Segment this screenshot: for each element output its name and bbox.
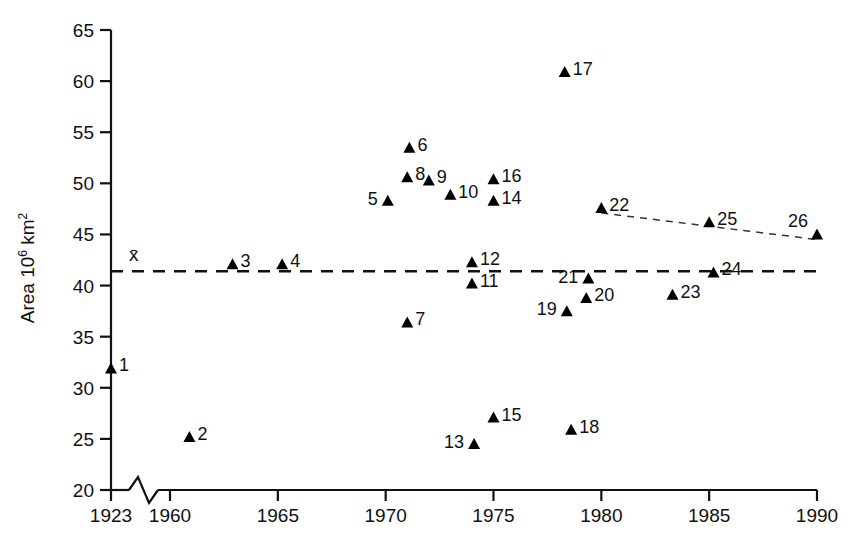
y-axis-title: Area 106 km2 [16,212,38,323]
chart-canvas: 65605550454035302520 1923196019651970197… [0,0,854,549]
y-tick-label: 35 [73,327,94,348]
y-tick-label: 30 [73,378,94,399]
data-point-label: 22 [609,195,629,215]
x-tick-label: 1975 [472,505,514,526]
data-point-label: 11 [480,271,499,291]
data-point-label: 12 [480,249,500,269]
scatter-chart: 65605550454035302520 1923196019651970197… [0,0,854,549]
y-tick-label: 25 [73,429,94,450]
data-point-label: 21 [558,267,578,287]
data-point-label: 19 [537,299,557,319]
y-tick-label: 55 [73,122,94,143]
data-point-label: 7 [415,309,425,329]
y-axis-title-text: Area 106 km2 [16,212,38,323]
x-tick-label: 1970 [365,505,407,526]
data-point-label: 9 [437,167,447,187]
data-point-label: 26 [788,211,808,231]
data-point-label: 14 [502,188,522,208]
y-tick-label: 60 [73,71,94,92]
data-point-label: 17 [573,59,593,79]
data-point-label: 24 [721,259,741,279]
data-point-label: 3 [241,251,251,271]
data-point-label: 25 [717,209,737,229]
data-point-label: 18 [579,417,599,437]
data-point-label: 8 [415,164,425,184]
data-point-label: 6 [417,135,427,155]
data-point-label: 5 [368,189,378,209]
y-tick-label: 50 [73,173,94,194]
y-tick-label: 65 [73,20,94,41]
data-point-label: 23 [681,282,701,302]
data-point-label: 15 [502,405,522,425]
x-tick-label: 1960 [149,505,191,526]
data-point-label: 10 [458,182,478,202]
mean-line-label: x̄ [129,244,139,265]
x-tick-label: 1965 [257,505,299,526]
data-point-label: 13 [444,432,464,452]
data-point-label: 20 [594,285,614,305]
y-tick-label: 40 [73,276,94,297]
x-tick-label: 1923 [90,505,132,526]
data-point-label: 1 [119,355,129,375]
x-tick-label: 1985 [688,505,730,526]
y-tick-label: 45 [73,224,94,245]
data-point-label: 4 [290,251,300,271]
x-tick-label: 1980 [580,505,622,526]
y-tick-label: 20 [73,480,94,501]
data-point-label: 2 [197,424,207,444]
data-point-label: 16 [502,166,522,186]
x-tick-label: 1990 [796,505,838,526]
